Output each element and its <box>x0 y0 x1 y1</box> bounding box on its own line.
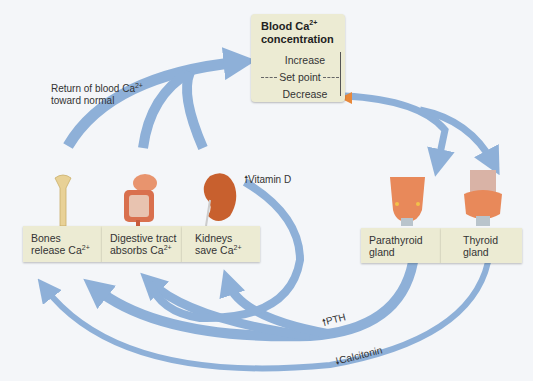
set-point-dash-left <box>261 77 277 78</box>
effector-box-bones: Bones release Ca2+ <box>23 226 102 262</box>
kidney-icon <box>204 173 237 226</box>
bone-icon <box>55 175 71 226</box>
center-title: Blood Ca2+ concentration <box>261 20 339 46</box>
vitamin-d-label: 🠕Vitamin D <box>244 174 291 186</box>
parathyroid-icon <box>390 177 425 226</box>
gland-box-parathyroid: Parathyroid gland <box>361 228 441 263</box>
thyroid-icon <box>464 170 502 226</box>
return-label: Return of blood Ca2+ toward normal <box>51 83 143 107</box>
scale-ticks <box>336 52 341 96</box>
decrease-label: Decrease <box>265 88 345 100</box>
blood-calcium-box: Blood Ca2+ concentration Increase Set po… <box>251 14 345 102</box>
intestine-icon <box>124 174 157 228</box>
effector-box-digestive: Digestive tract absorbs Ca2+ <box>102 226 182 262</box>
effector-box-kidneys: Kidneys save Ca2+ <box>182 226 260 262</box>
set-point-row: Set point <box>259 71 341 83</box>
gland-box-thyroid: Thyroid gland <box>441 228 522 263</box>
increase-label: Increase <box>265 54 345 66</box>
set-point-label: Set point <box>279 71 320 83</box>
